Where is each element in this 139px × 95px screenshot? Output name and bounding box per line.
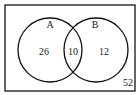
set-b-label: B <box>92 19 99 30</box>
b-only-value: 12 <box>99 46 109 57</box>
intersection-value: 10 <box>68 46 78 57</box>
a-only-value: 26 <box>39 46 49 57</box>
set-a-label: A <box>46 19 53 30</box>
outside-value: 52 <box>123 77 133 88</box>
